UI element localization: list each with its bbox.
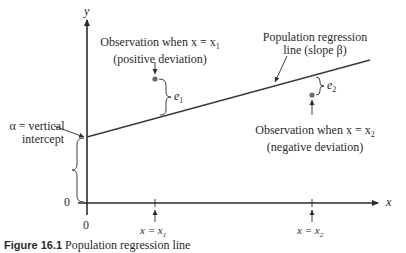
observation1-label-line1: Observation when x = x (100, 35, 215, 49)
observation2-label: Observation when x = x2 (negative deviat… (250, 124, 380, 154)
figure-caption: Figure 16.1 Population regression line (4, 238, 190, 253)
y-axis-label: y (84, 5, 89, 18)
observation2-label-line1: Observation when x = x (255, 123, 370, 137)
figure-number: Figure 16.1 (4, 239, 62, 251)
observation-point-1 (152, 76, 157, 81)
tick-label-x2: x = x2 (297, 224, 323, 242)
intercept-label: α = vertical intercept (4, 120, 70, 146)
regression-label-arrow (275, 56, 287, 82)
intercept-brace (72, 138, 84, 202)
observation2-label-sub: 2 (371, 130, 375, 139)
regression-line-label: Population regression line (slope β) (250, 31, 380, 57)
error-brace-1 (159, 79, 171, 115)
observation1-label-line2: (positive deviation) (95, 53, 225, 66)
figure-caption-text: Population regression line (65, 238, 190, 252)
error-brace-2 (316, 77, 324, 95)
error-label-2: e2 (327, 79, 336, 96)
origin-x-label: 0 (83, 219, 89, 232)
origin-y-label: 0 (64, 196, 70, 209)
observation2-label-line2: (negative deviation) (250, 141, 380, 154)
x-axis-label: x (386, 196, 391, 209)
error-label-1: e1 (174, 90, 183, 107)
regression-label-line2: line (slope β) (250, 44, 380, 57)
observation1-label: Observation when x = x1 (positive deviat… (95, 36, 225, 66)
observation1-label-sub: 1 (216, 42, 220, 51)
intercept-label-line2: intercept (4, 133, 70, 146)
observation-point-2 (309, 92, 314, 97)
